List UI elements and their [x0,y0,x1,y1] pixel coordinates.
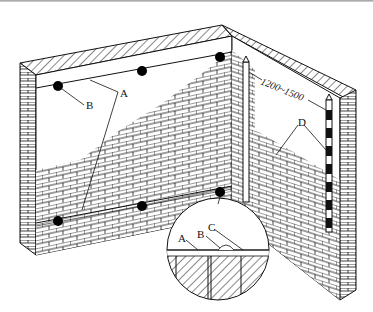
marker-dot [137,66,147,76]
wall-diagram: B A D 1200~1500 A B C [0,0,373,312]
left-wall-end-face [20,63,36,255]
label-b: B [86,99,93,111]
corner-rod [243,56,249,202]
label-a: A [120,87,128,99]
marker-dot [215,187,225,197]
label-d: D [298,116,306,128]
striped-guide-bar [326,94,332,232]
right-wall-end-face [340,90,356,300]
detail-label-b: B [197,228,204,240]
detail-label-c: C [208,221,215,233]
marker-dot [137,201,147,211]
marker-dot [53,216,63,226]
marker-dot [215,52,225,62]
detail-label-a: A [178,232,186,244]
